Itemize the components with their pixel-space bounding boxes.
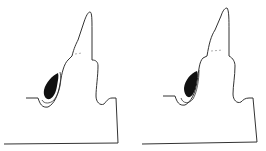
diagram-panel-right [133,0,266,151]
baseline [4,143,118,144]
gum-line-dashed [211,50,223,51]
baseline [142,142,257,144]
tooth-diagram-left [0,0,133,151]
tooth-outline [163,8,257,142]
tooth-diagram-right [133,0,266,151]
tooth-outline [26,12,118,143]
lesion-shape [44,73,59,99]
gum-line-dashed [75,53,82,54]
diagram-panel-left [0,0,133,151]
